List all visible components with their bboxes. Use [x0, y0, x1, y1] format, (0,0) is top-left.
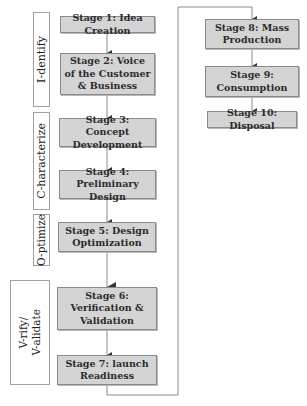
stage-4: Stage 4: Preliminary Design [59, 170, 156, 199]
stage-8: Stage 8: Mass Production [205, 19, 299, 49]
stage-1-label: Stage 1: Idea Creation [64, 12, 151, 37]
phase-identify-label: I-dentify [35, 36, 49, 83]
stage-1: Stage 1: Idea Creation [60, 16, 155, 33]
stage-5-label: Stage 5: Design Optimization [62, 225, 152, 250]
phase-verify-validate: V-rify/ V-alidate [10, 280, 50, 385]
stage-10-label: Stage 10: Disposal [211, 107, 293, 132]
stage-2: Stage 2: Voice of the Customer & Busines… [60, 53, 155, 95]
phase-optimize: O-ptimize [33, 214, 50, 266]
phase-characterize: C-haracterize [33, 112, 50, 210]
stage-3-label: Stage 3: Concept Development [63, 114, 152, 151]
stage-3: Stage 3: Concept Development [59, 118, 156, 147]
phase-verify-validate-label: V-rify/ V-alidate [17, 309, 43, 356]
stage-6: Stage 6: Verification & Validation [57, 287, 157, 330]
stage-10: Stage 10: Disposal [207, 111, 297, 128]
stage-7: Stage 7: launch Readiness [57, 355, 157, 385]
stage-2-label: Stage 2: Voice of the Customer & Busines… [64, 55, 151, 92]
stage-6-label: Stage 6: Verification & Validation [61, 290, 153, 327]
stage-8-label: Stage 8: Mass Production [209, 22, 295, 47]
stage-7-label: Stage 7: launch Readiness [61, 358, 153, 383]
phase-characterize-label: C-haracterize [35, 123, 49, 199]
phase-identify: I-dentify [33, 12, 50, 107]
stage-9: Stage 9: Consumption [205, 66, 299, 97]
phase-optimize-label: O-ptimize [35, 214, 48, 266]
stage-5: Stage 5: Design Optimization [58, 222, 156, 252]
stage-9-label: Stage 9: Consumption [209, 69, 295, 94]
stage-4-label: Stage 4: Preliminary Design [63, 166, 152, 203]
